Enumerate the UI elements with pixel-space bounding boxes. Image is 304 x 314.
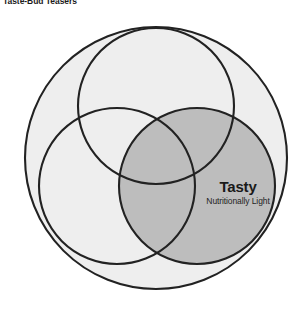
diagram-canvas: Taste-Bud Teasers Tasty Nutritionally Li… [0,0,304,314]
venn-diagram [0,0,304,314]
